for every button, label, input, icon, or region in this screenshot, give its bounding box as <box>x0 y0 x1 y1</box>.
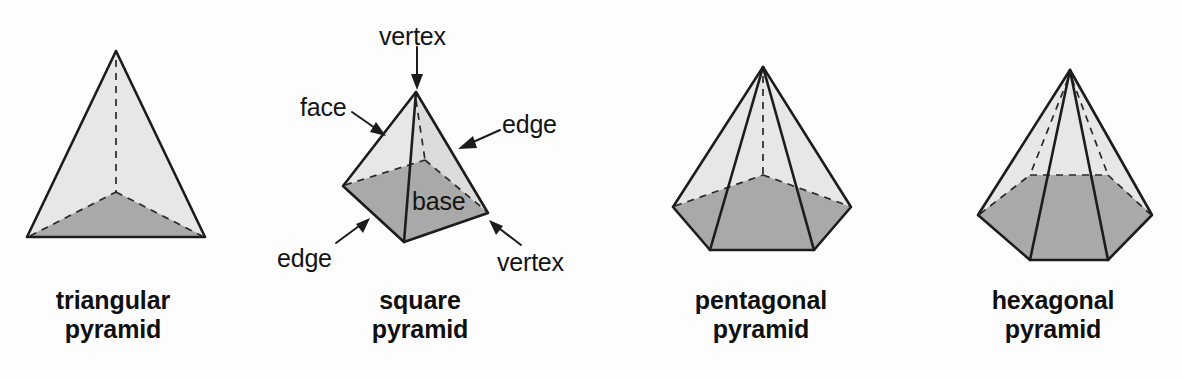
caption-square-line1: square <box>307 286 533 315</box>
caption-square-pyramid: square pyramid <box>307 286 533 343</box>
caption-square-line2: pyramid <box>307 315 533 344</box>
arrowhead-face <box>370 122 386 136</box>
callout-arrow-edge-right <box>458 130 500 149</box>
callout-label-vertex-bottom-right: vertex <box>497 248 564 277</box>
callout-arrow-vertex-top <box>411 47 423 90</box>
callout-arrow-face <box>352 112 386 136</box>
arrowhead-vertex-bottom-right <box>489 220 503 235</box>
pentagonal-pyramid-shape <box>673 67 851 250</box>
callout-label-edge-right: edge <box>502 110 557 139</box>
caption-triangular-line1: triangular <box>0 286 226 315</box>
callout-label-face: face <box>300 93 346 122</box>
square-pyramid-shape <box>343 92 488 242</box>
caption-hexagonal-line1: hexagonal <box>940 286 1166 315</box>
caption-pentagonal-line1: pentagonal <box>648 286 874 315</box>
hexagonal-pyramid-shape <box>978 70 1152 260</box>
arrowhead-vertex-top <box>411 74 423 90</box>
callout-label-base: base <box>412 187 465 216</box>
caption-pentagonal-pyramid: pentagonal pyramid <box>648 286 874 343</box>
callout-arrow-vertex-bottom-right <box>489 220 521 245</box>
caption-hexagonal-pyramid: hexagonal pyramid <box>940 286 1166 343</box>
arrowhead-edge-right <box>458 136 477 149</box>
callout-label-vertex-top: vertex <box>379 22 446 51</box>
caption-triangular-pyramid: triangular pyramid <box>0 286 226 343</box>
caption-triangular-line2: pyramid <box>0 315 226 344</box>
callout-label-edge-bottom-left: edge <box>277 244 332 273</box>
caption-pentagonal-line2: pyramid <box>648 315 874 344</box>
triangular-pyramid-shape <box>27 51 205 237</box>
caption-hexagonal-line2: pyramid <box>940 315 1166 344</box>
callout-arrow-edge-bottom-left <box>336 218 370 243</box>
arrowhead-edge-bottom-left <box>356 218 370 233</box>
pyramid-figure: vertex face edge base edge vertex triang… <box>0 0 1182 379</box>
